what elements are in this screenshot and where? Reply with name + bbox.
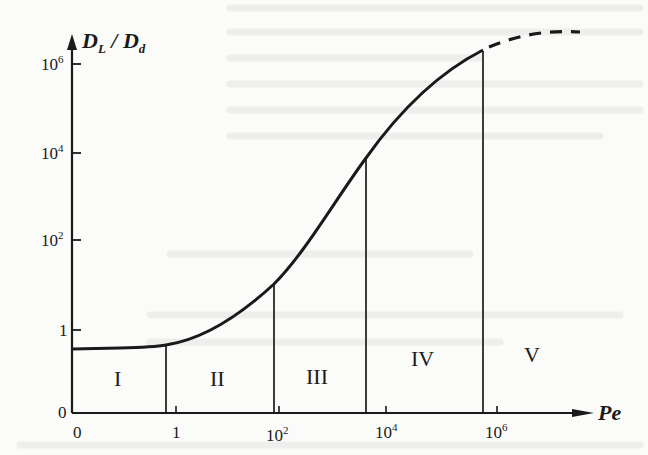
x-tick-label-1e2: 102 [266, 424, 289, 445]
dispersion-curve [72, 50, 483, 349]
region-label-4: IV [411, 346, 434, 371]
y-tick-label-1e2: 102 [41, 229, 64, 250]
y-axis-arrow-icon [67, 34, 77, 50]
x-tick-label-1e6: 106 [485, 421, 508, 442]
x-tick-label-1e4: 104 [375, 421, 398, 442]
region-dividers [166, 51, 483, 413]
y-tick-label-1: 1 [59, 321, 68, 340]
y-axis-title: DL / Dd [81, 28, 146, 56]
region-label-1: I [114, 366, 121, 391]
dispersion-regime-figure: DL / Dd 106 104 102 1 0 0 1 102 104 106 … [0, 0, 648, 455]
y-ticks [72, 64, 81, 330]
region-label-2: II [210, 366, 225, 391]
x-axis-arrow-icon [572, 409, 594, 417]
y-tick-label-0: 0 [58, 403, 67, 422]
x-axis-title: Pe [597, 400, 621, 425]
region-label-3: III [306, 364, 328, 389]
region-label-5: V [524, 342, 540, 367]
y-tick-label-1e6: 106 [41, 53, 64, 74]
chart-plot: DL / Dd 106 104 102 1 0 0 1 102 104 106 … [0, 0, 648, 455]
x-tick-label-1: 1 [172, 423, 181, 442]
x-tick-label-0: 0 [73, 423, 82, 442]
dispersion-curve-extrapolation [489, 32, 580, 47]
y-tick-label-1e4: 104 [41, 142, 64, 163]
